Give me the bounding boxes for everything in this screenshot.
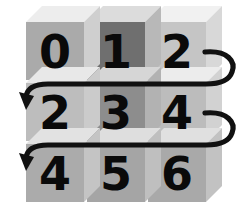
serpentine-grid-diagram: 210432654 bbox=[0, 0, 241, 223]
block-front-face bbox=[26, 144, 84, 202]
block-grid bbox=[26, 6, 222, 202]
grid-block-4-r2c0 bbox=[26, 128, 100, 202]
diagram-canvas: 210432654 bbox=[0, 0, 241, 223]
